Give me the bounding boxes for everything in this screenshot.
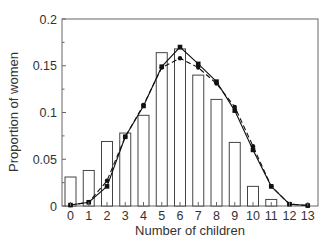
x-tick-label: 7	[195, 209, 202, 223]
y-tick-label: 0.15	[33, 59, 57, 73]
bar-3	[120, 133, 131, 206]
y-tick-label: 0.1	[40, 106, 57, 120]
bar-0	[65, 177, 76, 206]
x-tick-label: 13	[301, 209, 315, 223]
bars	[65, 49, 277, 206]
square-marker	[159, 64, 164, 69]
bar-7	[193, 75, 204, 206]
square-marker	[105, 184, 110, 189]
x-tick-label: 6	[177, 209, 184, 223]
bar-9	[229, 142, 240, 206]
x-tick-label: 10	[246, 209, 260, 223]
y-tick-label: 0	[50, 200, 57, 214]
square-marker	[214, 79, 219, 84]
x-tick-label: 2	[104, 209, 111, 223]
circle-marker	[178, 56, 182, 60]
x-tick-label: 5	[158, 209, 165, 223]
chart: 00.050.10.150.2 012345678910111213 Numbe…	[0, 0, 330, 244]
square-marker	[178, 45, 183, 50]
x-axis-title: Number of children	[135, 223, 245, 238]
square-marker	[123, 135, 128, 140]
plot-frame	[62, 19, 318, 206]
x-tick-label: 3	[122, 209, 129, 223]
x-tick-label: 0	[67, 209, 74, 223]
square-marker	[196, 62, 201, 67]
y-axis-title: Proportion of women	[6, 52, 21, 172]
x-tick-label: 8	[213, 209, 220, 223]
x-tick-label: 12	[283, 209, 297, 223]
x-tick-label: 11	[265, 209, 278, 223]
y-tick-label: 0.2	[40, 13, 57, 27]
x-tick-label: 9	[231, 209, 238, 223]
x-tick-label: 4	[140, 209, 147, 223]
y-axis-ticks: 00.050.10.150.2	[33, 13, 66, 214]
x-tick-label: 1	[85, 209, 92, 223]
bar-6	[175, 49, 186, 206]
bar-8	[211, 99, 222, 206]
square-marker	[232, 108, 237, 113]
y-tick-label: 0.05	[33, 153, 57, 167]
square-marker	[141, 104, 146, 109]
square-marker	[269, 184, 274, 189]
square-marker	[251, 148, 256, 153]
bar-2	[102, 141, 113, 206]
bar-4	[138, 115, 149, 206]
